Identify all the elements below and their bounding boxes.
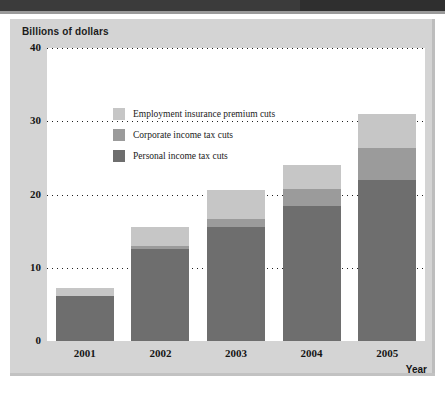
legend-swatch-employment_insurance xyxy=(113,108,125,120)
chart-title: Billions of dollars xyxy=(22,26,109,37)
bar-segment-2001-ei[interactable] xyxy=(56,288,114,295)
y-tick-label-0: 0 xyxy=(13,334,41,346)
bar-segment-2005-personal[interactable] xyxy=(358,180,416,341)
x-axis-title: Year xyxy=(406,364,427,375)
y-tick-label-30: 30 xyxy=(13,114,41,126)
y-tick-label-10: 10 xyxy=(13,261,41,273)
chart-legend: Employment insurance premium cutsCorpora… xyxy=(113,105,343,168)
legend-item-employment_insurance[interactable]: Employment insurance premium cuts xyxy=(113,105,343,123)
scan-top-band-right xyxy=(300,0,445,11)
x-tick-label-2004: 2004 xyxy=(282,347,342,359)
legend-label-employment_insurance: Employment insurance premium cuts xyxy=(133,109,275,119)
bar-segment-2002-ei[interactable] xyxy=(131,227,189,246)
scan-top-band-fade xyxy=(0,11,445,14)
bar-segment-2003-corporate[interactable] xyxy=(207,219,265,227)
legend-label-corporate: Corporate income tax cuts xyxy=(133,130,233,140)
bar-2002[interactable] xyxy=(131,48,189,341)
bar-segment-2005-corporate[interactable] xyxy=(358,148,416,180)
bar-segment-2002-personal[interactable] xyxy=(131,249,189,341)
y-tick-label-40: 40 xyxy=(13,41,41,53)
legend-swatch-corporate xyxy=(113,129,125,141)
x-tick-label-2001: 2001 xyxy=(55,347,115,359)
legend-swatch-personal xyxy=(113,150,125,162)
bar-segment-2004-ei[interactable] xyxy=(283,165,341,188)
bar-segment-2003-personal[interactable] xyxy=(207,227,265,341)
y-tick-label-20: 20 xyxy=(13,188,41,200)
bar-segment-2002-corporate[interactable] xyxy=(131,246,189,249)
chart-panel-bottom-edge xyxy=(10,373,435,376)
bar-2001[interactable] xyxy=(56,48,114,341)
figure-container: Billions of dollars 010203040 Employment… xyxy=(0,0,445,393)
bar-2003[interactable] xyxy=(207,48,265,341)
x-tick-label-2005: 2005 xyxy=(357,347,417,359)
bar-2005[interactable] xyxy=(358,48,416,341)
legend-item-corporate[interactable]: Corporate income tax cuts xyxy=(113,126,343,144)
x-tick-label-2002: 2002 xyxy=(130,347,190,359)
plot-area: Employment insurance premium cutsCorpora… xyxy=(47,48,425,341)
x-tick-label-2003: 2003 xyxy=(206,347,266,359)
legend-item-personal[interactable]: Personal income tax cuts xyxy=(113,147,343,165)
bar-segment-2003-ei[interactable] xyxy=(207,190,265,219)
bar-segment-2001-personal[interactable] xyxy=(56,296,114,341)
bar-segment-2004-personal[interactable] xyxy=(283,206,341,342)
legend-label-personal: Personal income tax cuts xyxy=(133,151,228,161)
bar-segment-2005-ei[interactable] xyxy=(358,114,416,148)
bar-2004[interactable] xyxy=(283,48,341,341)
chart-panel-right-edge xyxy=(432,19,435,376)
bar-segment-2004-corporate[interactable] xyxy=(283,189,341,206)
